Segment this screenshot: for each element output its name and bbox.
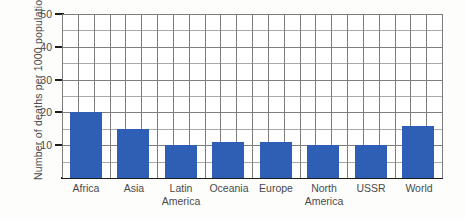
x-axis-tick-label-line1: North (311, 182, 337, 194)
bar-chart-figure: Number of deaths per 1000 population 102… (0, 0, 465, 219)
bar (165, 145, 197, 178)
bar (307, 145, 339, 178)
x-axis-tick-label-line1: Oceania (209, 182, 248, 194)
x-axis-tick-label-line1: Asia (124, 182, 144, 194)
bar (117, 129, 149, 178)
x-axis-tick-label-line1: Latin (170, 182, 193, 194)
y-axis-tick-label: 40 (6, 41, 52, 53)
x-axis-tick-label-line2: America (151, 195, 211, 208)
grid-line-vertical (157, 14, 158, 178)
grid-line-vertical (347, 14, 348, 178)
y-axis-tick-label: 10 (6, 139, 52, 151)
x-axis-tick-label-line1: USSR (356, 182, 385, 194)
grid-line-vertical (252, 14, 253, 178)
bar (260, 142, 292, 178)
grid-line-vertical (442, 14, 443, 178)
bar (212, 142, 244, 178)
bar (355, 145, 387, 178)
grid-line-vertical (62, 14, 63, 178)
x-axis-tick-label-line1: Africa (73, 182, 100, 194)
grid-line-vertical (205, 14, 206, 178)
y-axis-tick-label: 50 (6, 8, 52, 20)
x-axis-tick-label: World (389, 182, 449, 195)
x-axis-tick-label-line2: America (294, 195, 354, 208)
plot-area (62, 14, 442, 178)
bar (402, 126, 434, 178)
grid-line-vertical (110, 14, 111, 178)
y-axis-tick-label: 30 (6, 74, 52, 86)
x-axis-tick-label-line1: Europe (259, 182, 293, 194)
grid-line-vertical (395, 14, 396, 178)
bar (70, 112, 102, 178)
y-axis-title: Number of deaths per 1000 population (32, 0, 44, 180)
y-axis-tick-label: 20 (6, 106, 52, 118)
x-axis-tick-label-line1: World (405, 182, 432, 194)
grid-line-vertical (300, 14, 301, 178)
